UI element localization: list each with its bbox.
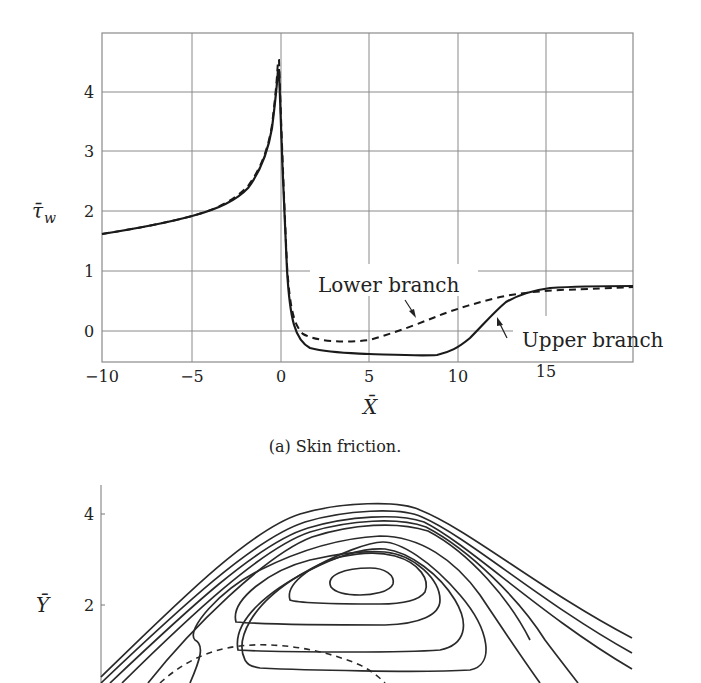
- svg-text:4: 4: [84, 505, 94, 524]
- svg-text:0: 0: [276, 367, 286, 386]
- y-axis-ticks: 0 1 2 3 4: [84, 83, 94, 341]
- y-axis-label: τ̄ w: [32, 199, 56, 226]
- svg-text:w: w: [44, 210, 56, 226]
- x-axis-label: X̄: [361, 394, 378, 419]
- svg-text:0: 0: [84, 322, 94, 341]
- upper-branch-label: Upper branch: [522, 328, 664, 352]
- svg-text:10: 10: [448, 367, 468, 386]
- svg-text:τ̄: τ̄: [32, 199, 44, 223]
- svg-text:2: 2: [84, 596, 94, 615]
- svg-text:15: 15: [536, 362, 556, 381]
- lower-branch-arrow: [405, 300, 416, 318]
- svg-text:3: 3: [84, 142, 94, 161]
- svg-text:2: 2: [84, 202, 94, 221]
- grid-lines: [102, 33, 633, 362]
- streamline-plot: 4 2 Ȳ: [36, 485, 632, 683]
- svg-text:−5: −5: [180, 367, 204, 386]
- svg-text:−10: −10: [85, 367, 119, 386]
- x-axis-ticks: −10 −5 0 5 10 15: [85, 362, 556, 386]
- upper-branch-curve: [102, 70, 633, 355]
- lower-branch-label: Lower branch: [318, 273, 460, 297]
- svg-text:1: 1: [84, 262, 94, 281]
- y-axis-label-bottom: Ȳ: [36, 593, 51, 617]
- caption-a: (a) Skin friction.: [269, 437, 402, 456]
- lower-branch-curve: [102, 60, 633, 342]
- figure: Lower branch Upper branch 0 1 2 3 4 −10 …: [0, 0, 701, 683]
- upper-branch-arrow: [497, 317, 507, 338]
- plot-frame: [102, 33, 633, 362]
- skin-friction-plot: Lower branch Upper branch 0 1 2 3 4 −10 …: [32, 33, 701, 419]
- svg-text:5: 5: [364, 367, 374, 386]
- svg-text:4: 4: [84, 83, 94, 102]
